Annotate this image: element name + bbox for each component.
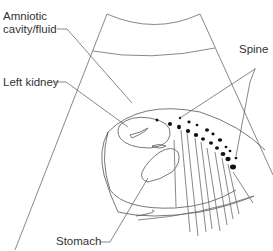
vertebra-dot bbox=[209, 141, 213, 145]
fan-right-edge bbox=[200, 14, 273, 175]
vertebra-dot bbox=[205, 128, 209, 132]
vertebra-dot bbox=[168, 122, 172, 126]
vertebra-dot bbox=[225, 146, 228, 148]
vertebra-dot bbox=[230, 165, 236, 170]
label-left-kidney: Left kidney bbox=[3, 76, 59, 88]
ultrasound-diagram: Amniotic cavity/fluid Left kidney Spine … bbox=[0, 0, 273, 251]
spine-vertebrae bbox=[156, 117, 238, 170]
vertebra-dot bbox=[215, 146, 219, 150]
vertebra-dot bbox=[187, 121, 190, 124]
vertebra-dot bbox=[196, 124, 199, 126]
spine-leader-2 bbox=[236, 69, 255, 156]
stomach-shape bbox=[142, 149, 180, 183]
label-spine: Spine bbox=[239, 43, 268, 55]
kidney-pelvis bbox=[130, 128, 148, 138]
stomach-leader bbox=[100, 178, 148, 242]
vertebra-dot bbox=[201, 137, 205, 141]
label-stomach: Stomach bbox=[56, 235, 101, 247]
vertebra-dot bbox=[225, 157, 230, 161]
acoustic-shadows bbox=[174, 130, 253, 236]
abdomen-outline bbox=[104, 109, 265, 208]
vertebra-dot bbox=[235, 157, 238, 159]
label-amniotic-line2: cavity/fluid bbox=[3, 23, 57, 35]
vertebra-dot bbox=[211, 133, 214, 136]
vertebra-dot bbox=[177, 125, 181, 129]
label-amniotic-line1: Amniotic bbox=[3, 10, 47, 22]
vertebra-dot bbox=[221, 152, 226, 156]
vertebra-dot bbox=[156, 119, 159, 122]
vertebra-dot bbox=[194, 133, 198, 137]
amniotic-leader bbox=[57, 29, 132, 103]
amniotic-arc bbox=[93, 48, 215, 56]
vertebra-dot bbox=[186, 129, 190, 133]
left-kidney-shape bbox=[118, 117, 170, 148]
vertebra-dot bbox=[218, 138, 222, 142]
fan-top-arc bbox=[107, 14, 200, 25]
vertebra-dot bbox=[229, 150, 232, 152]
fan-left-edge bbox=[15, 14, 107, 250]
